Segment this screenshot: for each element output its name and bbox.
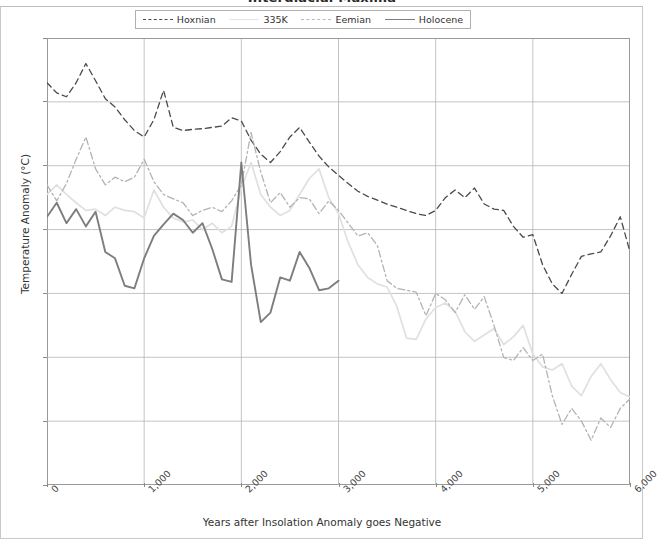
legend-swatch-holocene [385,19,415,20]
y-tick-mark [43,165,47,166]
legend-swatch-eemian [301,19,331,20]
y-tick-mark [43,229,47,230]
legend-item-hoxnian[interactable]: Hoxnian [141,14,218,25]
legend-label-hoxnian: Hoxnian [177,14,216,25]
legend-label-335k: 335K [263,14,287,25]
x-axis-label: Years after Insolation Anomaly goes Nega… [0,516,644,528]
y-tick-mark [43,357,47,358]
y-tick-mark [43,293,47,294]
x-tick-mark [144,483,145,487]
y-tick-mark [43,101,47,102]
x-tick-mark [630,483,631,487]
x-tick-mark [47,483,48,487]
y-tick-mark [43,38,47,39]
legend-label-eemian: Eemian [335,14,371,25]
legend-label-holocene: Holocene [419,14,463,25]
series-line-holocene [47,163,339,323]
x-tick-mark [436,483,437,487]
legend-item-eemian[interactable]: Eemian [299,14,373,25]
legend-item-holocene[interactable]: Holocene [383,14,465,25]
legend-item-335k[interactable]: 335K [227,14,289,25]
plot-canvas [47,38,630,485]
legend-swatch-hoxnian [143,19,173,20]
plot-area [47,38,630,485]
x-tick-mark [241,483,242,487]
y-axis-label: Temperature Anomaly (°C) [19,104,31,344]
legend-swatch-335k [229,19,259,20]
x-tick-mark [533,483,534,487]
chart-title: Interglacial Maxima [0,0,644,2]
chart-legend: Hoxnian 335K Eemian Holocene [135,10,471,29]
x-tick-mark [339,483,340,487]
y-tick-mark [43,421,47,422]
